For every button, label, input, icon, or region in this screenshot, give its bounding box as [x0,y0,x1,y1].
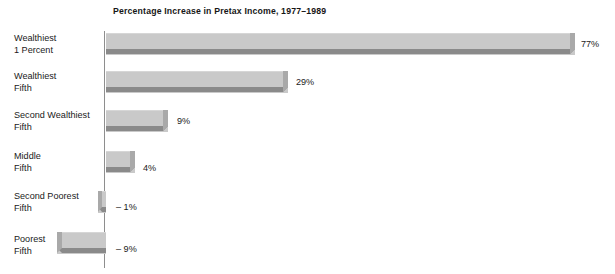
category-label-line1: Second Wealthiest [14,110,90,122]
bar-shadow [106,87,288,92]
category-label: Poorest Fifth [14,234,45,257]
category-label: Middle Fifth [14,151,41,174]
category-label-line2: Fifth [14,203,79,215]
value-label: 77% [581,39,599,50]
category-label: Second Poorest Fifth [14,191,79,214]
bar-neg-1 [98,191,106,212]
category-label-line2: 1 Percent [14,45,56,57]
category-label-line2: Fifth [14,122,90,134]
category-label-line1: Wealthiest [14,33,56,45]
category-label: Wealthiest 1 Percent [14,33,56,56]
value-label: 29% [296,77,314,88]
category-label-line1: Poorest [14,234,45,246]
value-label: 9% [177,116,190,127]
category-label-line2: Fifth [14,163,41,175]
value-label: – 9% [116,244,137,255]
bar-4 [106,151,135,172]
value-label: 4% [143,163,156,174]
category-label-line1: Middle [14,151,41,163]
category-label: Second Wealthiest Fifth [14,110,90,133]
bar-shadow [106,49,575,54]
category-label-line2: Fifth [14,246,45,258]
bar-chart: Percentage Increase in Pretax Income, 19… [0,0,615,274]
bar-9 [106,110,168,131]
category-label-line2: Fifth [14,83,56,95]
category-label-line1: Wealthiest [14,71,56,83]
bar-shadow [106,126,168,131]
value-label: – 1% [116,202,137,213]
bar-77 [106,33,575,54]
category-label-line1: Second Poorest [14,191,79,203]
bar-29 [106,71,288,92]
bar-neg-9 [57,232,106,253]
bar-shadow [57,248,106,253]
category-label: Wealthiest Fifth [14,71,56,94]
